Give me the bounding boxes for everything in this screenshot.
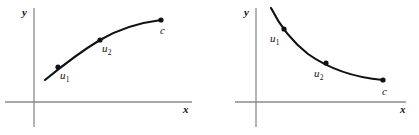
point-label-u1-base: u [60, 69, 66, 81]
point-label-u1-subscript: 1 [66, 75, 70, 84]
point-label-u1-base: u [270, 32, 276, 44]
curve-point-u2-marker [323, 60, 328, 65]
x-axis-label: x [400, 104, 406, 115]
point-label-c: c [382, 86, 387, 97]
y-axis-label: y [22, 7, 27, 18]
x-axis-label: x [183, 104, 189, 115]
point-label-u2-subscript: 2 [108, 48, 112, 57]
point-label-u1: u1 [60, 70, 69, 81]
curve-point-c-marker [158, 17, 163, 22]
left-panel-graphic [0, 0, 210, 135]
point-label-u2-base: u [314, 67, 320, 79]
point-label-u1-subscript: 1 [276, 38, 280, 47]
point-label-u2: u2 [102, 43, 111, 54]
figure-root: y x u1 u2 c y x u1 u2 c [0, 0, 419, 135]
point-label-c: c [160, 25, 165, 36]
panel-left-increasing-curve: y x u1 u2 c [0, 0, 210, 135]
curve-point-u1-marker [281, 26, 286, 31]
panel-right-decreasing-curve: y x u1 u2 c [210, 0, 419, 135]
y-axis-label: y [244, 7, 249, 18]
curve-path-decreasing [271, 8, 383, 80]
point-label-u2: u2 [314, 68, 323, 79]
curve-point-c-marker [380, 77, 385, 82]
point-label-u2-subscript: 2 [320, 73, 324, 82]
point-label-u2-base: u [102, 42, 108, 54]
point-label-u1: u1 [270, 33, 279, 44]
